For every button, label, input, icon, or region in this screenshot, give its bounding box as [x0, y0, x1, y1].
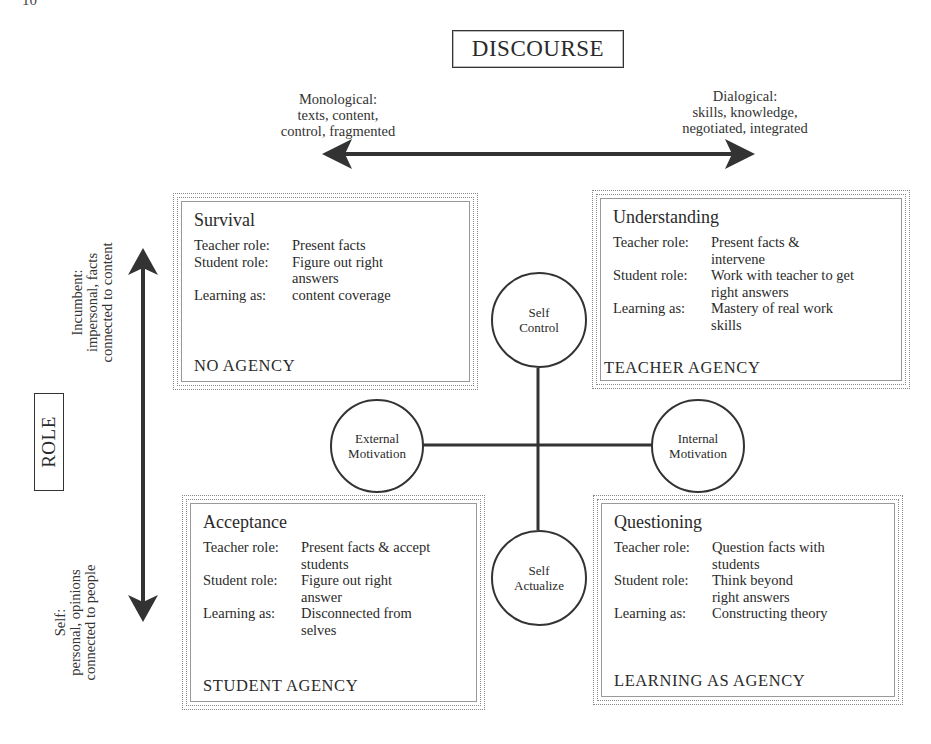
- learning-as-row: Learning as: Mastery of real work skills: [613, 300, 889, 333]
- agency-label: NO AGENCY: [194, 356, 295, 376]
- student-role-row: Student role: Work with teacher to get r…: [613, 267, 889, 300]
- pole-line: personal, opinions: [68, 533, 83, 713]
- agency-label: LEARNING AS AGENCY: [614, 671, 805, 691]
- pole-line: Self:: [53, 533, 68, 713]
- node-line: Motivation: [348, 446, 406, 461]
- quadrant-questioning: Questioning Teacher role: Question facts…: [593, 495, 903, 705]
- row-key: Student role:: [203, 572, 301, 605]
- node-line: Control: [519, 320, 559, 335]
- row-value: Work with teacher to get right answers: [711, 267, 866, 300]
- agency-label: TEACHER AGENCY: [604, 358, 760, 378]
- node-self-control: Self Control: [491, 272, 587, 368]
- quadrant-acceptance: Acceptance Teacher role: Present facts &…: [182, 495, 485, 710]
- learning-as-row: Learning as: Constructing theory: [614, 605, 882, 622]
- agency-label: STUDENT AGENCY: [203, 676, 358, 696]
- student-role-row: Student role: Figure out right answer: [203, 572, 464, 605]
- pole-line: connected to people: [83, 533, 98, 713]
- horizontal-double-arrow-icon: [322, 139, 755, 169]
- node-line: Self: [514, 563, 564, 578]
- row-key: Student role:: [613, 267, 711, 300]
- row-key: Teacher role:: [203, 539, 301, 572]
- row-value: Question facts with students: [712, 539, 827, 572]
- row-value: Figure out right answers: [292, 254, 422, 287]
- teacher-role-row: Teacher role: Question facts with studen…: [614, 539, 882, 572]
- row-key: Learning as:: [613, 300, 711, 333]
- row-value: Constructing theory: [712, 605, 882, 622]
- node-line: Actualize: [514, 578, 564, 593]
- node-line: Internal: [669, 431, 727, 446]
- teacher-role-row: Teacher role: Present facts & accept stu…: [203, 539, 464, 572]
- learning-as-row: Learning as: content coverage: [194, 287, 457, 304]
- node-line: External: [348, 431, 406, 446]
- row-value: Think beyond right answers: [712, 572, 817, 605]
- row-value: Disconnected from selves: [301, 605, 446, 638]
- vertical-double-arrow-icon: [128, 248, 158, 622]
- pole-line: Incumbent:: [70, 203, 85, 403]
- incumbent-pole-label: Incumbent: impersonal, facts connected t…: [70, 203, 115, 403]
- row-value: Present facts & intervene: [711, 234, 851, 267]
- student-role-row: Student role: Figure out right answers: [194, 254, 457, 287]
- row-value: Present facts & accept students: [301, 539, 436, 572]
- quadrant-survival: Survival Teacher role: Present facts Stu…: [173, 193, 478, 390]
- row-value: Mastery of real work skills: [711, 300, 836, 333]
- self-pole-label: Self: personal, opinions connected to pe…: [53, 533, 98, 713]
- row-key: Teacher role:: [614, 539, 712, 572]
- pole-line: connected to content: [100, 203, 115, 403]
- row-value: Present facts: [292, 237, 457, 254]
- row-key: Learning as:: [614, 605, 712, 622]
- row-key: Student role:: [614, 572, 712, 605]
- pole-line: impersonal, facts: [85, 203, 100, 403]
- row-key: Teacher role:: [613, 234, 711, 267]
- row-value: content coverage: [292, 287, 457, 304]
- role-label: ROLE: [38, 416, 60, 468]
- row-key: Teacher role:: [194, 237, 292, 254]
- row-key: Learning as:: [194, 287, 292, 304]
- quadrant-title: Survival: [194, 210, 457, 231]
- teacher-role-row: Teacher role: Present facts: [194, 237, 457, 254]
- row-value: Figure out right answer: [301, 572, 426, 605]
- node-external-motivation: External Motivation: [330, 399, 424, 493]
- teacher-role-row: Teacher role: Present facts & intervene: [613, 234, 889, 267]
- role-label-box: ROLE: [34, 393, 64, 491]
- quadrant-title: Understanding: [613, 207, 889, 228]
- node-self-actualize: Self Actualize: [491, 530, 587, 626]
- quadrant-title: Questioning: [614, 512, 882, 533]
- quadrant-understanding: Understanding Teacher role: Present fact…: [592, 190, 910, 389]
- node-internal-motivation: Internal Motivation: [651, 399, 745, 493]
- quadrant-title: Acceptance: [203, 512, 464, 533]
- student-role-row: Student role: Think beyond right answers: [614, 572, 882, 605]
- learning-as-row: Learning as: Disconnected from selves: [203, 605, 464, 638]
- row-key: Student role:: [194, 254, 292, 287]
- node-line: Self: [519, 305, 559, 320]
- row-key: Learning as:: [203, 605, 301, 638]
- node-line: Motivation: [669, 446, 727, 461]
